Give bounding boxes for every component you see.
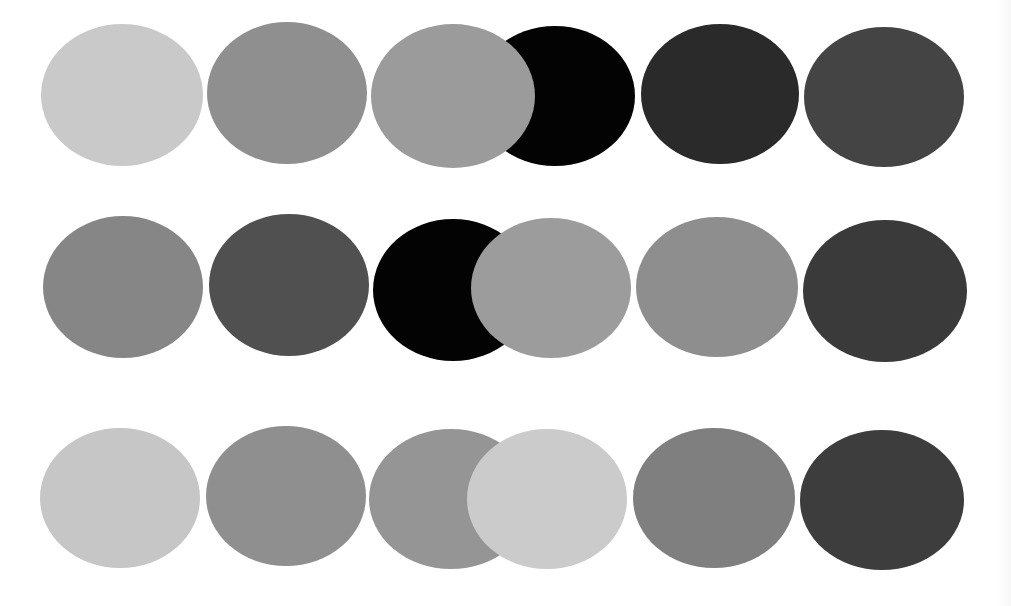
grey-circle-r3c5 <box>633 428 795 568</box>
grey-circle-r3c6 <box>800 430 964 570</box>
grey-circle-r3c4 <box>467 429 627 569</box>
grey-circle-r2c6 <box>803 220 967 362</box>
grey-circles-figure <box>0 0 1011 606</box>
grey-circle-r2c1 <box>43 216 203 358</box>
grey-circle-r1c6 <box>804 27 964 167</box>
grey-circle-r1c1 <box>41 24 203 166</box>
grey-circle-r1c2 <box>207 22 367 164</box>
grey-circle-r2c2 <box>209 214 369 356</box>
grey-circle-r3c2 <box>206 426 366 566</box>
grey-circle-r2c4 <box>471 218 631 358</box>
grey-circle-r2c5 <box>636 217 798 357</box>
grey-circle-r3c1 <box>40 428 200 568</box>
page-edge-shadow <box>997 0 1011 606</box>
grey-circle-r1c5 <box>641 24 799 164</box>
grey-circle-r1c3 <box>371 24 535 168</box>
